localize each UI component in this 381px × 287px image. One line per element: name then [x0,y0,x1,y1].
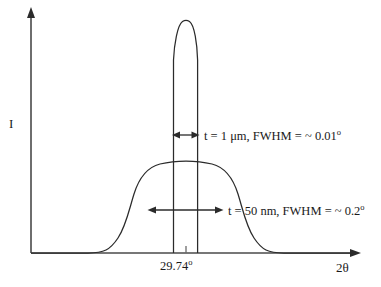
annotation-thick-film: t = 50 nm, FWHM = ~ 0.2o [228,203,365,218]
y-axis [27,7,35,253]
annotation-thick-film-text: t = 50 nm, FWHM = ~ 0.2 [228,204,360,218]
fwhm-arrow-narrow [172,132,200,139]
y-axis-label: I [9,117,13,130]
annotation-thin-film-text: t = 1 μm, FWHM = ~ 0.01 [204,129,337,143]
annotation-thin-film: t = 1 μm, FWHM = ~ 0.01o [204,128,341,143]
fwhm-arrow-broad [148,207,224,214]
xrd-peak-broadening-figure: I 2θ 29.74o t = 1 μm, FWHM = ~ 0.01o t =… [0,0,381,287]
annotation-thin-film-degree-symbol: o [337,127,341,137]
x-axis-tick-value: 29.74 [160,259,188,273]
annotation-thick-film-degree-symbol: o [360,202,364,212]
x-axis-tick-degree-symbol: o [188,257,192,267]
x-axis-label: 2θ [336,261,349,274]
plot-canvas [0,0,381,287]
x-axis-tick-label: 29.74o [160,258,192,273]
